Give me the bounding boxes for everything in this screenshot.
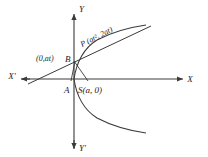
point-b-label: B xyxy=(65,54,71,64)
y-axis-label: Y xyxy=(79,4,85,14)
point-s-label: S(a, 0) xyxy=(78,85,102,95)
point-a-label: A xyxy=(63,85,70,95)
y-negative-axis-label: Y' xyxy=(79,143,87,153)
x-axis-label: X xyxy=(186,74,193,84)
point-b-coordinate-label: (0,at) xyxy=(36,54,54,63)
x-negative-axis-label: X' xyxy=(7,71,16,81)
parabola-diagram: Y Y' X X' (0,at) B A S(a, 0) P (at², 2at… xyxy=(0,0,208,157)
diagram-canvas: Y Y' X X' (0,at) B A S(a, 0) P (at², 2at… xyxy=(0,0,208,157)
